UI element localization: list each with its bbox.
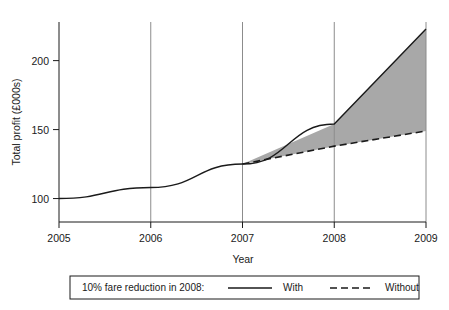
x-tick-label-2009: 2009	[414, 232, 438, 244]
y-axis-title: Total profit (£000s)	[10, 79, 22, 166]
x-tick-label-2006: 2006	[139, 232, 163, 244]
legend-label-without: Without	[385, 282, 419, 293]
y-axis-ticks: 100150200	[31, 55, 59, 205]
y-tick-label-200: 200	[31, 55, 49, 67]
x-tick-label-2005: 2005	[47, 232, 71, 244]
chart-container: 100150200 20052006200720082009 Total pro…	[0, 0, 449, 310]
x-tick-label-2008: 2008	[323, 232, 347, 244]
x-tick-label-2007: 2007	[231, 232, 255, 244]
y-tick-label-150: 150	[31, 124, 49, 136]
y-tick-label-100: 100	[31, 193, 49, 205]
x-axis-title: Year	[232, 253, 254, 265]
legend-label-with: With	[283, 282, 303, 293]
profit-line-chart: 100150200 20052006200720082009 Total pro…	[0, 0, 449, 310]
legend-caption: 10% fare reduction in 2008:	[82, 282, 204, 293]
x-axis-ticks: 20052006200720082009	[47, 222, 438, 244]
